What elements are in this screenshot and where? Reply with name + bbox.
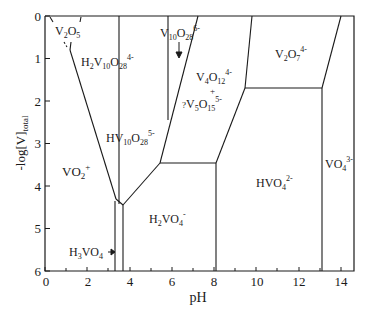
arrow-down-icon (176, 52, 182, 58)
y-axis-title: -log[V]total (13, 115, 30, 170)
label-vo2: VO2+ (62, 162, 90, 181)
x-axis-title: pH (189, 290, 206, 305)
x-tick-label: 0 (43, 274, 50, 289)
y-tick-label: 4 (35, 179, 42, 194)
x-tick-label: 8 (211, 274, 218, 289)
label-plus: + (210, 86, 215, 96)
x-tick-label: 2 (85, 274, 92, 289)
label-h2vo4: H2VO4- (149, 210, 186, 228)
label-v10o28: V10O286- (160, 24, 200, 42)
plot-frame (45, 16, 354, 271)
label-v2o5: V2O5 (55, 24, 80, 40)
label-v5o15: ?V5O155- (182, 95, 222, 113)
x-tick-label: 12 (293, 274, 306, 289)
x-tick-label: 6 (169, 274, 176, 289)
x-tick-label: 4 (127, 274, 134, 289)
species-labels: V2O5 H2V10O284- V10O286- V4O124- + ?V5O1… (55, 24, 353, 261)
y-tick-label: 6 (35, 264, 42, 279)
x-tick-label: 14 (335, 274, 349, 289)
label-vo4: VO43- (325, 155, 353, 173)
label-hvo4: HVO42- (256, 174, 293, 192)
label-v4o12: V4O124- (196, 68, 232, 86)
svg-text:-log[V]total: -log[V]total (13, 115, 30, 170)
label-h3vo4: H3VO4 (69, 245, 103, 261)
y-tick-label: 5 (35, 221, 42, 236)
y-tick-labels: 0 1 2 3 4 5 6 (35, 9, 42, 279)
label-h2v10o28: H2V10O284- (81, 53, 134, 71)
y-tick-label: 1 (35, 51, 42, 66)
vanadium-speciation-diagram: 0 2 4 6 8 10 12 14 0 1 2 3 4 5 6 pH -log… (0, 0, 368, 314)
arrow-right-icon (111, 249, 115, 255)
y-tick-label: 3 (35, 136, 42, 151)
x-tick-label: 10 (251, 274, 264, 289)
x-tick-labels: 0 2 4 6 8 10 12 14 (43, 274, 348, 289)
label-hv10o28: HV10O285- (106, 129, 155, 147)
label-v2o7: V2O74- (275, 45, 307, 63)
y-axis-ticks (45, 16, 50, 271)
y-tick-label: 0 (35, 9, 42, 24)
y-tick-label: 2 (35, 94, 42, 109)
